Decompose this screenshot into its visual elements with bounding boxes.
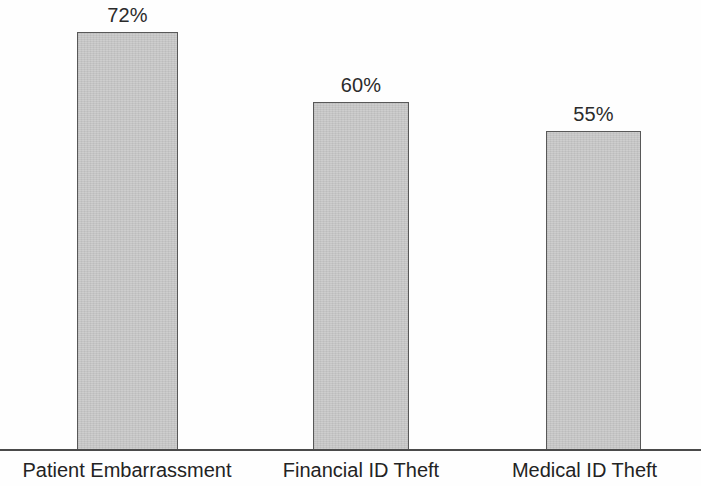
bar-patient-embarrassment — [77, 32, 178, 451]
bar-group-1: 60% — [313, 102, 409, 451]
bar-group-0: 72% — [77, 32, 178, 451]
category-label-financial-id-theft: Financial ID Theft — [254, 455, 468, 485]
bar-medical-id-theft — [546, 131, 641, 451]
x-axis-line — [0, 449, 701, 451]
bar-value-label-2: 55% — [546, 103, 641, 126]
plot-area: 72% 60% 55% — [0, 0, 701, 451]
bar-value-label-0: 72% — [77, 4, 178, 27]
category-label-medical-id-theft: Medical ID Theft — [468, 455, 701, 485]
bar-financial-id-theft — [313, 102, 409, 451]
category-axis-labels: Patient Embarrassment Financial ID Theft… — [0, 455, 701, 486]
category-label-patient-embarrassment: Patient Embarrassment — [0, 455, 254, 485]
bar-chart: 72% 60% 55% Patient Embarrassment Financ… — [0, 0, 701, 486]
bar-group-2: 55% — [546, 131, 641, 451]
bar-value-label-1: 60% — [313, 74, 409, 97]
